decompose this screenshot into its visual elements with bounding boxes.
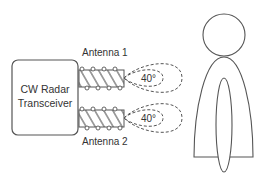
transceiver-box: CW Radar Transceiver [12,60,78,135]
arm-icon [216,78,232,172]
transceiver-label-line2: Transceiver [18,97,73,109]
antenna-1-label: Antenna 1 [82,47,128,58]
transceiver-label-line1: CW Radar [20,83,70,95]
antenna-2-label: Antenna 2 [82,136,128,147]
antenna-1: Antenna 1 40° [79,47,182,92]
antenna-2: 40° Antenna 2 [79,104,182,147]
radar-diagram: CW Radar Transceiver Antenna 1 40° 40° A… [0,0,263,181]
antenna-2-beam-angle: 40° [141,113,156,124]
head-icon [203,14,245,56]
human-figure-icon [194,14,253,172]
antenna-1-beam-angle: 40° [141,73,156,84]
